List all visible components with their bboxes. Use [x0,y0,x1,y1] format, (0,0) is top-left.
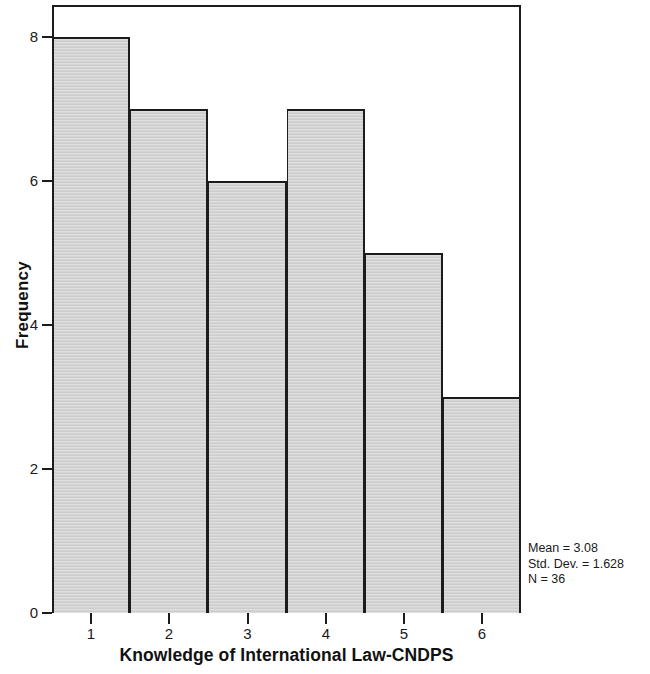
mean-label: Mean = 3.08 [528,541,624,557]
y-axis-tick [42,36,52,38]
x-axis-tick [481,613,483,624]
bars-layer [52,5,521,613]
y-axis-tick [42,612,52,614]
x-axis-tick-label: 1 [71,626,111,641]
x-axis-tick [90,613,92,624]
histogram-chart: 02468 123456 Frequency Knowledge of Inte… [0,0,650,674]
y-axis-title: Frequency [13,235,33,375]
x-axis-tick-label: 5 [384,626,424,641]
x-axis-title: Knowledge of International Law-CNDPS [52,645,521,666]
x-axis-tick [403,613,405,624]
sample-size-label: N = 36 [528,572,624,588]
y-axis-tick-label: 8 [8,29,38,44]
histogram-bar [287,109,365,613]
x-axis-tick-label: 3 [228,626,268,641]
x-axis-tick-label: 4 [306,626,346,641]
y-axis-tick-label: 0 [8,605,38,620]
histogram-bar [130,109,208,613]
y-axis-tick-label: 2 [8,461,38,476]
y-axis-tick [42,324,52,326]
y-axis-tick [42,180,52,182]
x-axis-tick [168,613,170,624]
statistics-annotation: Mean = 3.08 Std. Dev. = 1.628 N = 36 [528,541,624,588]
x-axis-tick [247,613,249,624]
y-axis-tick-label: 6 [8,173,38,188]
histogram-bar [52,37,130,613]
histogram-bar [208,181,287,613]
histogram-bar [365,253,443,613]
x-axis-tick-label: 6 [462,626,502,641]
y-axis-tick [42,468,52,470]
x-axis-tick [325,613,327,624]
histogram-bar [443,397,521,613]
std-dev-label: Std. Dev. = 1.628 [528,557,624,573]
x-axis-tick-label: 2 [149,626,189,641]
